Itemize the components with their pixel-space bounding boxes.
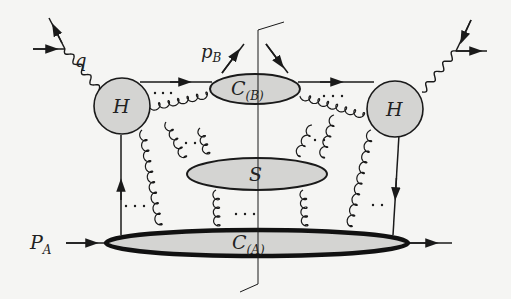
gluon-jet-b-to-soft-left [165, 122, 187, 158]
diagram-canvas: q pB H H C(B) S PA C(A) [0, 0, 511, 299]
label-photon-q: q [75, 50, 87, 71]
arrow-outgoing-hadron-b [222, 54, 236, 73]
gluon-cb-to-h-right [300, 96, 365, 118]
label-p-a: PA [29, 231, 52, 257]
fermion-lines [33, 18, 487, 243]
label-p-b: pB [201, 41, 222, 65]
gluon-soft-to-jet-a-left [213, 190, 220, 226]
arrow-incoming-cb [266, 44, 280, 63]
photon-line-right [422, 51, 456, 92]
gluon-jet-b-to-soft-left-2 [198, 128, 210, 154]
arrow-lepton-in-right [463, 20, 471, 38]
feynman-diagram: q pB H H C(B) S PA C(A) [0, 0, 511, 299]
gluon-h-right-to-ca [347, 130, 372, 227]
label-hard-left: H [112, 95, 130, 117]
gluon-h-left-to-ca [140, 130, 163, 225]
label-hard-right: H [385, 98, 403, 120]
label-soft: S [249, 163, 262, 185]
gluon-soft-to-jet-b-right-2 [320, 115, 334, 158]
gluon-soft-to-jet-b-right [296, 125, 312, 157]
arrow-lepton-out-left [55, 29, 62, 43]
gluon-h-left-to-cb [150, 92, 207, 110]
arrow-h-right-to-ca [396, 178, 397, 194]
gluon-soft-to-jet-a-right [300, 190, 308, 226]
